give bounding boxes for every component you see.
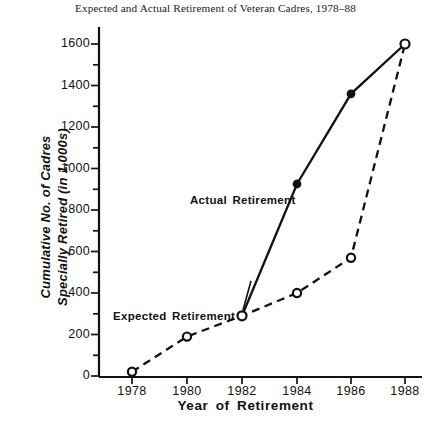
series-line-actual-retirement bbox=[242, 44, 405, 316]
data-point-expected-1980 bbox=[183, 333, 191, 341]
data-point-actual-1986 bbox=[347, 89, 356, 98]
y-axis-ticks bbox=[91, 44, 99, 376]
data-point-expected-1986 bbox=[347, 254, 355, 262]
series-line-expected-retirement bbox=[132, 44, 405, 372]
plot-canvas bbox=[0, 0, 431, 427]
series-markers-expected-retirement bbox=[128, 40, 410, 376]
data-point-expected-1984 bbox=[293, 289, 301, 297]
data-point-expected-1988 bbox=[401, 40, 410, 49]
chart-figure: Expected and Actual Retirement of Vetera… bbox=[0, 0, 431, 427]
data-point-expected-1982 bbox=[238, 311, 247, 320]
data-point-expected-1978 bbox=[128, 368, 136, 376]
data-point-actual-1984 bbox=[293, 180, 302, 189]
